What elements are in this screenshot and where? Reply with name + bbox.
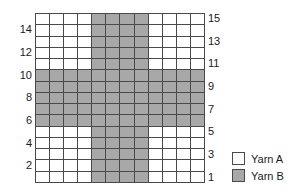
stitch-cell[interactable] (64, 59, 78, 70)
stitch-cell[interactable] (120, 127, 134, 138)
stitch-cell[interactable] (106, 138, 120, 149)
stitch-cell[interactable] (36, 127, 50, 138)
stitch-cell[interactable] (50, 70, 64, 81)
stitch-cell[interactable] (191, 82, 205, 93)
stitch-cell[interactable] (120, 160, 134, 171)
stitch-cell[interactable] (149, 48, 163, 59)
stitch-cell[interactable] (163, 93, 177, 104)
stitch-cell[interactable] (120, 138, 134, 149)
stitch-cell[interactable] (177, 160, 191, 171)
stitch-cell[interactable] (50, 82, 64, 93)
stitch-cell[interactable] (163, 59, 177, 70)
stitch-cell[interactable] (64, 25, 78, 36)
stitch-cell[interactable] (135, 82, 149, 93)
stitch-cell[interactable] (135, 14, 149, 25)
stitch-cell[interactable] (163, 48, 177, 59)
stitch-cell[interactable] (106, 70, 120, 81)
stitch-cell[interactable] (64, 37, 78, 48)
stitch-cell[interactable] (64, 48, 78, 59)
stitch-cell[interactable] (177, 25, 191, 36)
stitch-cell[interactable] (191, 14, 205, 25)
stitch-cell[interactable] (78, 82, 92, 93)
stitch-cell[interactable] (149, 160, 163, 171)
stitch-cell[interactable] (50, 149, 64, 160)
stitch-cell[interactable] (50, 25, 64, 36)
stitch-cell[interactable] (78, 25, 92, 36)
stitch-cell[interactable] (191, 48, 205, 59)
stitch-cell[interactable] (92, 25, 106, 36)
stitch-cell[interactable] (78, 104, 92, 115)
stitch-cell[interactable] (36, 172, 50, 183)
stitch-cell[interactable] (64, 138, 78, 149)
stitch-cell[interactable] (149, 25, 163, 36)
stitch-cell[interactable] (177, 104, 191, 115)
stitch-cell[interactable] (163, 82, 177, 93)
stitch-cell[interactable] (149, 138, 163, 149)
stitch-cell[interactable] (163, 172, 177, 183)
stitch-cell[interactable] (106, 93, 120, 104)
stitch-cell[interactable] (50, 37, 64, 48)
stitch-cell[interactable] (135, 37, 149, 48)
stitch-cell[interactable] (92, 104, 106, 115)
stitch-cell[interactable] (135, 104, 149, 115)
stitch-cell[interactable] (64, 14, 78, 25)
stitch-cell[interactable] (120, 149, 134, 160)
stitch-cell[interactable] (36, 25, 50, 36)
stitch-cell[interactable] (50, 115, 64, 126)
stitch-cell[interactable] (163, 127, 177, 138)
stitch-cell[interactable] (106, 25, 120, 36)
stitch-cell[interactable] (163, 70, 177, 81)
stitch-cell[interactable] (64, 127, 78, 138)
stitch-cell[interactable] (177, 37, 191, 48)
stitch-cell[interactable] (135, 138, 149, 149)
stitch-cell[interactable] (177, 138, 191, 149)
stitch-cell[interactable] (135, 115, 149, 126)
stitch-cell[interactable] (64, 149, 78, 160)
stitch-cell[interactable] (78, 48, 92, 59)
stitch-cell[interactable] (177, 48, 191, 59)
stitch-cell[interactable] (177, 14, 191, 25)
stitch-cell[interactable] (50, 172, 64, 183)
stitch-cell[interactable] (120, 59, 134, 70)
stitch-cell[interactable] (163, 14, 177, 25)
stitch-cell[interactable] (106, 59, 120, 70)
stitch-cell[interactable] (135, 25, 149, 36)
stitch-cell[interactable] (92, 149, 106, 160)
stitch-cell[interactable] (149, 59, 163, 70)
stitch-cell[interactable] (191, 93, 205, 104)
stitch-cell[interactable] (120, 48, 134, 59)
stitch-cell[interactable] (92, 59, 106, 70)
stitch-cell[interactable] (36, 14, 50, 25)
stitch-cell[interactable] (92, 93, 106, 104)
stitch-cell[interactable] (92, 82, 106, 93)
stitch-cell[interactable] (163, 25, 177, 36)
stitch-cell[interactable] (120, 172, 134, 183)
stitch-cell[interactable] (191, 127, 205, 138)
stitch-cell[interactable] (120, 82, 134, 93)
stitch-cell[interactable] (191, 138, 205, 149)
stitch-cell[interactable] (191, 172, 205, 183)
stitch-cell[interactable] (106, 82, 120, 93)
stitch-cell[interactable] (50, 138, 64, 149)
stitch-cell[interactable] (191, 160, 205, 171)
stitch-cell[interactable] (50, 160, 64, 171)
stitch-cell[interactable] (92, 37, 106, 48)
stitch-cell[interactable] (120, 14, 134, 25)
stitch-cell[interactable] (78, 14, 92, 25)
stitch-cell[interactable] (50, 93, 64, 104)
stitch-cell[interactable] (163, 37, 177, 48)
stitch-cell[interactable] (135, 59, 149, 70)
stitch-cell[interactable] (64, 115, 78, 126)
stitch-cell[interactable] (120, 104, 134, 115)
stitch-cell[interactable] (92, 160, 106, 171)
stitch-cell[interactable] (78, 149, 92, 160)
stitch-cell[interactable] (120, 93, 134, 104)
stitch-cell[interactable] (135, 48, 149, 59)
stitch-cell[interactable] (92, 138, 106, 149)
stitch-cell[interactable] (163, 104, 177, 115)
stitch-cell[interactable] (92, 70, 106, 81)
stitch-cell[interactable] (36, 70, 50, 81)
stitch-cell[interactable] (78, 115, 92, 126)
stitch-cell[interactable] (191, 59, 205, 70)
stitch-cell[interactable] (135, 93, 149, 104)
